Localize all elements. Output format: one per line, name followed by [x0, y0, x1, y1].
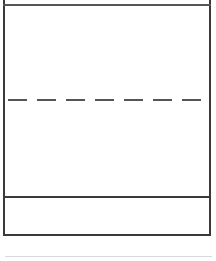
top-line: [3, 4, 211, 6]
footer-line: [5, 256, 212, 257]
dashed-divider: [8, 99, 206, 101]
outer-frame: [3, 0, 211, 236]
bottom-section-divider: [3, 196, 211, 198]
diagram-canvas: [0, 0, 216, 261]
